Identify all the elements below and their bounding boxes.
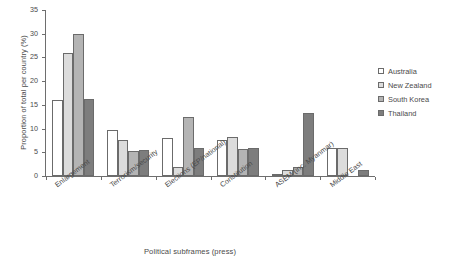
legend-swatch-icon	[378, 110, 384, 116]
x-tick-mark	[265, 177, 266, 180]
bar-group	[107, 10, 149, 176]
y-tick-label: 0	[12, 172, 38, 179]
bar-group	[52, 10, 94, 176]
y-tick-label: 20	[12, 77, 38, 84]
legend-label: Australia	[388, 67, 417, 76]
chart-legend: AustraliaNew ZealandSouth KoreaThailand	[378, 64, 432, 120]
x-tick-mark	[375, 177, 376, 180]
legend-label: New Zealand	[388, 81, 432, 90]
bar-group	[272, 10, 314, 176]
bar-chart: Proportion of total per country (%) 0510…	[0, 0, 450, 275]
bar	[52, 100, 63, 176]
y-tick-mark	[42, 129, 45, 130]
y-tick-mark	[42, 105, 45, 106]
y-tick-label: 30	[12, 30, 38, 37]
x-tick-mark	[156, 177, 157, 180]
bar	[162, 138, 173, 176]
bar-group	[162, 10, 204, 176]
x-tick-mark	[320, 177, 321, 180]
legend-item-new-zealand[interactable]: New Zealand	[378, 78, 432, 92]
legend-item-south-korea[interactable]: South Korea	[378, 92, 432, 106]
legend-item-thailand[interactable]: Thailand	[378, 106, 432, 120]
y-tick-mark	[42, 176, 45, 177]
y-tick-label: 10	[12, 125, 38, 132]
legend-item-australia[interactable]: Australia	[378, 64, 432, 78]
legend-swatch-icon	[378, 96, 384, 102]
y-tick-label: 15	[12, 101, 38, 108]
x-tick-mark	[46, 177, 47, 180]
x-axis-title: Political subframes (press)	[40, 247, 340, 256]
bar	[358, 170, 369, 176]
legend-swatch-icon	[378, 68, 384, 74]
y-tick-mark	[42, 34, 45, 35]
bar	[73, 34, 84, 176]
y-tick-mark	[42, 10, 45, 11]
bar	[63, 53, 74, 176]
y-tick-mark	[42, 152, 45, 153]
bar	[107, 130, 118, 176]
x-tick-mark	[101, 177, 102, 180]
legend-label: Thailand	[388, 109, 416, 118]
legend-label: South Korea	[388, 95, 429, 104]
y-tick-mark	[42, 81, 45, 82]
y-tick-label: 25	[12, 53, 38, 60]
y-tick-label: 35	[12, 6, 38, 13]
y-tick-mark	[42, 57, 45, 58]
bar	[327, 148, 338, 176]
bar-group	[327, 10, 369, 176]
x-tick-mark	[211, 177, 212, 180]
legend-swatch-icon	[378, 82, 384, 88]
bar-group	[217, 10, 259, 176]
y-tick-label: 5	[12, 148, 38, 155]
